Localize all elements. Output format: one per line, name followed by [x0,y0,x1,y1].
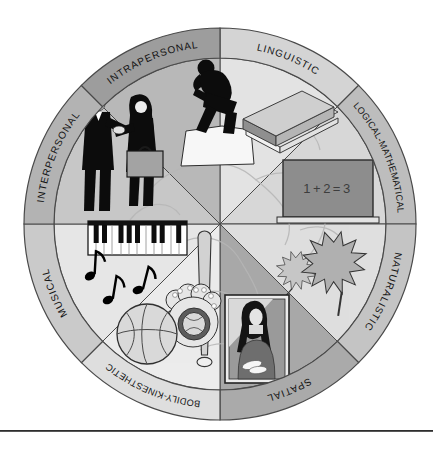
handshake-hands [113,126,125,134]
statue-pedestal [181,126,254,166]
baseball-icon [183,313,206,336]
figure-page: 1+2=3 [0,0,433,455]
mona-lisa-icon [225,295,289,383]
mona-lisa-face [249,308,262,325]
briefcase [127,147,163,177]
bottom-divider-line [0,430,433,432]
chalk-tray [277,217,379,223]
basketball-icon [117,304,177,364]
chalkboard-equation: 1+2=3 [303,181,352,196]
multiple-intelligences-wheel: 1+2=3 [0,0,433,455]
chalkboard-icon: 1+2=3 [277,160,379,223]
piano-keyboard-icon [88,221,187,255]
